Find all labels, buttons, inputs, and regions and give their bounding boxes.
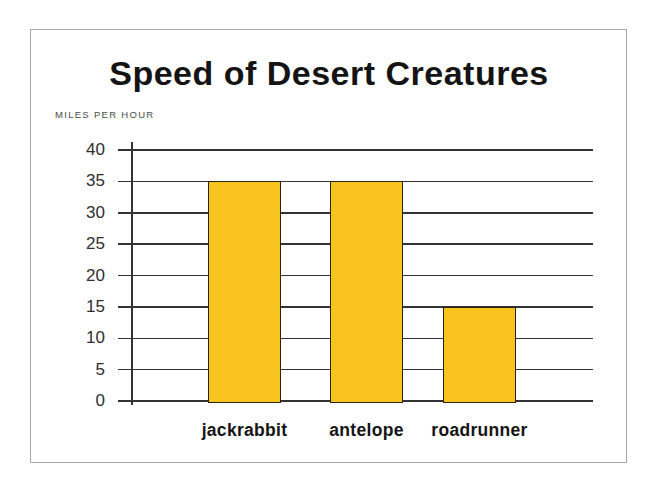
chart-title: Speed of Desert Creatures bbox=[30, 54, 628, 93]
y-tick-label-30: 30 bbox=[43, 202, 105, 224]
gridline-40 bbox=[118, 149, 593, 151]
y-tick-label-0: 0 bbox=[43, 390, 105, 412]
bar-antelope bbox=[330, 181, 403, 402]
x-category-label-roadrunner: roadrunner bbox=[410, 420, 550, 441]
y-tick-label-25: 25 bbox=[43, 233, 105, 255]
bar-roadrunner bbox=[443, 307, 516, 403]
chart-frame bbox=[30, 29, 627, 463]
y-tick-label-20: 20 bbox=[43, 265, 105, 287]
y-axis-line bbox=[131, 142, 133, 405]
y-tick-label-15: 15 bbox=[43, 296, 105, 318]
y-axis-label: MILES PER HOUR bbox=[55, 109, 155, 120]
chart-page: Speed of Desert Creatures MILES PER HOUR… bbox=[0, 0, 665, 485]
x-category-label-jackrabbit: jackrabbit bbox=[175, 420, 315, 441]
y-tick-label-5: 5 bbox=[43, 359, 105, 381]
bar-jackrabbit bbox=[208, 181, 281, 402]
y-tick-label-10: 10 bbox=[43, 327, 105, 349]
y-tick-label-35: 35 bbox=[43, 170, 105, 192]
y-tick-label-40: 40 bbox=[43, 139, 105, 161]
